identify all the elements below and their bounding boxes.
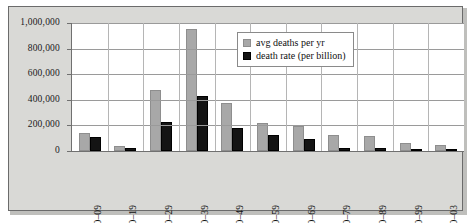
bar-avg-deaths-per-yr — [400, 143, 411, 151]
gridline-horizontal — [72, 125, 464, 126]
gridline-vertical — [428, 23, 429, 151]
bar-avg-deaths-per-yr — [79, 133, 90, 151]
y-axis-tick-label: 800,000 — [28, 44, 67, 54]
bar-group — [364, 23, 386, 151]
legend-item-death-rate-per-billion: death rate (per billion) — [243, 49, 346, 62]
bar-group — [150, 23, 172, 151]
bar-avg-deaths-per-yr — [257, 123, 268, 151]
legend-label-avg: avg deaths per yr — [256, 36, 325, 49]
gridline-vertical — [108, 23, 109, 151]
gridline-horizontal — [72, 74, 464, 75]
bar-avg-deaths-per-yr — [364, 136, 375, 151]
gridline-vertical — [215, 23, 216, 151]
gridline-horizontal — [72, 100, 464, 101]
x-axis-tick-label: 1990–99 — [414, 205, 424, 223]
bar-death-rate-per-billion — [446, 149, 457, 151]
x-axis-tick-label: 1930–39 — [200, 205, 210, 223]
bar-group — [400, 23, 422, 151]
x-axis-tick-label: 1920–29 — [164, 205, 174, 223]
bar-avg-deaths-per-yr — [435, 145, 446, 151]
x-axis-tick-label: 1980–89 — [378, 205, 388, 223]
bar-avg-deaths-per-yr — [293, 126, 304, 151]
chart-screenshot: 1,000,000800,000600,000400,000200,0000 1… — [0, 0, 475, 223]
x-axis-tick-label: 1950–59 — [271, 205, 281, 223]
x-axis-tick-label: 1910–19 — [128, 205, 138, 223]
bar-avg-deaths-per-yr — [328, 135, 339, 151]
bar-avg-deaths-per-yr — [114, 146, 125, 151]
chart-legend: avg deaths per yr death rate (per billio… — [237, 32, 354, 67]
bar-death-rate-per-billion — [197, 96, 208, 151]
x-axis-tick-label: 2000–03 — [449, 205, 459, 223]
y-axis: 1,000,000800,000600,000400,000200,0000 — [9, 23, 67, 151]
bar-avg-deaths-per-yr — [221, 103, 232, 151]
gridline-horizontal — [72, 23, 464, 24]
y-axis-tick-label: 200,000 — [28, 120, 67, 130]
bar-death-rate-per-billion — [304, 139, 315, 151]
legend-swatch-icon-avg — [243, 39, 251, 47]
gridline-vertical — [179, 23, 180, 151]
bar-death-rate-per-billion — [125, 148, 136, 151]
y-axis-tick-label: 0 — [55, 146, 67, 156]
bar-death-rate-per-billion — [375, 148, 386, 151]
x-axis-tick-label: 1960–69 — [307, 205, 317, 223]
bar-death-rate-per-billion — [339, 148, 350, 151]
legend-item-avg-deaths-per-yr: avg deaths per yr — [243, 36, 346, 49]
legend-label-rate: death rate (per billion) — [256, 49, 346, 62]
bar-death-rate-per-billion — [161, 122, 172, 151]
gridline-vertical — [357, 23, 358, 151]
bar-group — [79, 23, 101, 151]
bar-death-rate-per-billion — [411, 149, 422, 151]
x-axis-labels: 1900–091910–191920–291930–391940–491950–… — [71, 153, 463, 211]
bar-group — [435, 23, 457, 151]
x-axis-tick-label: 1900–09 — [93, 205, 103, 223]
y-axis-tick-label: 600,000 — [28, 69, 67, 79]
bar-group — [114, 23, 136, 151]
gridline-vertical — [393, 23, 394, 151]
x-axis-tick-label: 1970–79 — [342, 205, 352, 223]
y-axis-tick-label: 400,000 — [28, 95, 67, 105]
chart-frame: 1,000,000800,000600,000400,000200,0000 1… — [8, 6, 463, 211]
bar-death-rate-per-billion — [232, 128, 243, 151]
bar-avg-deaths-per-yr — [150, 90, 161, 151]
x-axis-tick-label: 1940–49 — [235, 205, 245, 223]
bar-death-rate-per-billion — [268, 135, 279, 151]
bar-group — [186, 23, 208, 151]
gridline-vertical — [143, 23, 144, 151]
bar-death-rate-per-billion — [90, 137, 101, 151]
legend-swatch-icon-rate — [243, 52, 251, 60]
y-axis-tick-label: 1,000,000 — [20, 18, 67, 28]
